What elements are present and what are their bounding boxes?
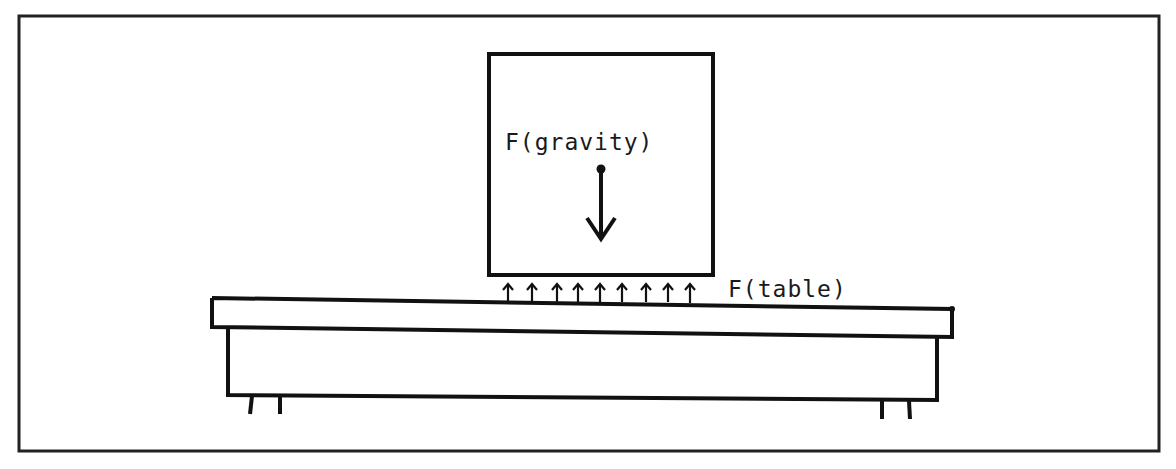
- table-force-label: F(table): [728, 276, 847, 302]
- up-arrow-icon: [641, 284, 651, 302]
- table-top: [212, 298, 952, 337]
- table: [212, 298, 955, 419]
- table-leg: [250, 396, 252, 414]
- table-body: [228, 327, 937, 400]
- up-arrow-icon: [595, 284, 605, 302]
- gravity-label: F(gravity): [505, 129, 653, 155]
- up-arrow-icon: [573, 284, 583, 302]
- up-arrow-icon: [552, 284, 562, 302]
- gravity-arrow-icon: [587, 165, 615, 240]
- table-leg: [909, 401, 910, 419]
- up-arrow-icon: [685, 284, 695, 303]
- outer-frame: [19, 16, 1159, 451]
- table-force-arrows: [503, 284, 695, 303]
- up-arrow-icon: [503, 284, 513, 302]
- up-arrow-icon: [663, 284, 673, 302]
- up-arrow-icon: [527, 284, 537, 302]
- force-diagram: F(gravity) F(table): [0, 0, 1176, 469]
- up-arrow-icon: [617, 284, 627, 302]
